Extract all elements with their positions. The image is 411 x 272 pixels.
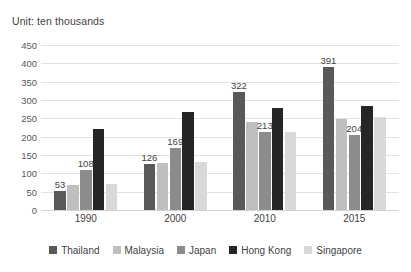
y-tick-label: 400	[3, 58, 37, 69]
bar-slot	[93, 45, 105, 210]
bar-slot: 391	[323, 45, 335, 210]
bar[interactable]	[182, 112, 194, 210]
bar-slot: 204	[349, 45, 361, 210]
bar-value-label: 322	[231, 80, 247, 91]
legend-label: Thailand	[61, 245, 99, 256]
bar-slot: 322	[233, 45, 245, 210]
bar[interactable]	[374, 117, 386, 210]
y-tick-label: 350	[3, 76, 37, 87]
bar[interactable]	[170, 148, 182, 210]
bar[interactable]	[195, 162, 207, 210]
y-tick-label: 450	[3, 40, 37, 51]
bar-group: 322213	[220, 45, 310, 210]
legend-item[interactable]: Hong Kong	[229, 245, 291, 256]
bar[interactable]	[349, 135, 361, 210]
y-tick-label: 100	[3, 168, 37, 179]
bar[interactable]	[67, 185, 79, 210]
bar-slot	[285, 45, 297, 210]
bar-slot	[361, 45, 373, 210]
legend-label: Hong Kong	[241, 245, 291, 256]
y-tick-label: 50	[3, 186, 37, 197]
bar[interactable]	[246, 122, 258, 210]
bar-value-label: 213	[257, 120, 273, 131]
bar-slot: 53	[54, 45, 66, 210]
bar-group: 53108	[41, 45, 131, 210]
bar-slot: 213	[259, 45, 271, 210]
bar[interactable]	[272, 108, 284, 210]
bar[interactable]	[233, 92, 245, 210]
bar-slot	[106, 45, 118, 210]
grouped-bar-chart: Unit: ten thousands 45040035030025020015…	[0, 0, 411, 272]
legend-swatch-icon	[304, 246, 312, 254]
bar-slot: 169	[170, 45, 182, 210]
bar-slot: 108	[80, 45, 92, 210]
y-axis: 450400350300250200150100500	[0, 45, 37, 210]
y-tick-label: 150	[3, 150, 37, 161]
gridline	[41, 210, 399, 211]
chart-legend: ThailandMalaysiaJapanHong KongSingapore	[0, 241, 411, 259]
chart-title: Unit: ten thousands	[12, 15, 104, 27]
legend-item[interactable]: Malaysia	[113, 245, 164, 256]
bar-value-label: 126	[142, 152, 158, 163]
x-tick-label: 2000	[164, 213, 186, 224]
x-axis: 1990200020102015	[41, 213, 399, 229]
x-tick-label: 2015	[343, 213, 365, 224]
legend-item[interactable]: Singapore	[304, 245, 362, 256]
bar[interactable]	[80, 170, 92, 210]
bar[interactable]	[144, 164, 156, 210]
bar-value-label: 108	[78, 158, 94, 169]
bar-slot	[182, 45, 194, 210]
legend-label: Singapore	[316, 245, 362, 256]
legend-item[interactable]: Japan	[177, 245, 216, 256]
bar-slot	[157, 45, 169, 210]
plot-area: 53108126169322213391204	[41, 45, 399, 210]
bar[interactable]	[157, 163, 169, 210]
bar-slot	[272, 45, 284, 210]
legend-swatch-icon	[113, 246, 121, 254]
bar-value-label: 391	[321, 55, 337, 66]
x-tick-label: 1990	[75, 213, 97, 224]
bar[interactable]	[323, 67, 335, 210]
bar-value-label: 53	[55, 179, 66, 190]
bar-value-label: 204	[346, 123, 362, 134]
bar[interactable]	[259, 132, 271, 210]
bar-slot	[195, 45, 207, 210]
bar[interactable]	[285, 132, 297, 210]
bar-group: 391204	[310, 45, 400, 210]
y-tick-label: 250	[3, 113, 37, 124]
y-tick-label: 0	[3, 205, 37, 216]
legend-label: Malaysia	[125, 245, 164, 256]
bar-slot	[374, 45, 386, 210]
bar[interactable]	[54, 191, 66, 210]
y-tick-label: 300	[3, 95, 37, 106]
legend-swatch-icon	[177, 246, 185, 254]
y-tick-label: 200	[3, 131, 37, 142]
legend-item[interactable]: Thailand	[49, 245, 99, 256]
bar[interactable]	[93, 129, 105, 210]
bar-slot	[67, 45, 79, 210]
legend-swatch-icon	[229, 246, 237, 254]
bar[interactable]	[361, 106, 373, 210]
legend-label: Japan	[189, 245, 216, 256]
bar-slot: 126	[144, 45, 156, 210]
x-tick-label: 2010	[254, 213, 276, 224]
legend-swatch-icon	[49, 246, 57, 254]
bar[interactable]	[106, 184, 118, 210]
bar-value-label: 169	[167, 136, 183, 147]
bar-group: 126169	[131, 45, 221, 210]
